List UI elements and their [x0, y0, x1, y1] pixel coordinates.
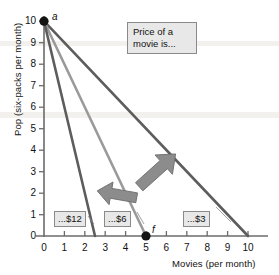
arrow-right-icon	[130, 144, 184, 196]
budget-line-price-6	[44, 21, 146, 236]
point-f-marker	[141, 231, 150, 240]
chart-canvas	[0, 0, 279, 275]
budget-line-chart: 10 9 8 7 6 5 4 3 2 1 0 0 1 2 3 4 5 6 7 8…	[0, 0, 279, 275]
budget-line-price-3	[44, 21, 248, 236]
budget-line-price-12	[44, 21, 95, 236]
point-a-marker	[39, 17, 48, 26]
